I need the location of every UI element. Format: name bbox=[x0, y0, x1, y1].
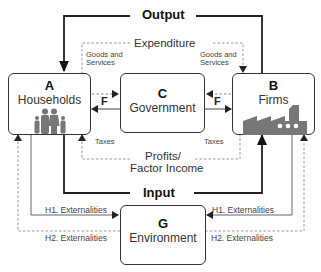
environment-name: Environment bbox=[121, 231, 205, 245]
goods-services-left-label: Goods and Services bbox=[86, 51, 123, 67]
factory-icon bbox=[243, 105, 307, 135]
h1-right-label: H1. Externalities bbox=[212, 206, 274, 215]
h1-left-label: H1. Externalities bbox=[45, 206, 107, 215]
output-label: Output bbox=[142, 8, 185, 22]
goods-left-line2: Services bbox=[86, 59, 123, 67]
government-name: Government bbox=[121, 101, 204, 115]
households-node[interactable]: A Households bbox=[8, 73, 91, 135]
profits-label: Profits/ Factor Income bbox=[130, 150, 196, 174]
taxes-right-label: Taxes bbox=[204, 138, 224, 146]
h2-right-label: H2. Externalities bbox=[211, 234, 273, 243]
government-node[interactable]: C Government bbox=[120, 73, 205, 133]
input-label: Input bbox=[143, 186, 175, 200]
profits-line2: Factor Income bbox=[130, 162, 196, 174]
profits-line1: Profits/ bbox=[130, 150, 196, 162]
h1-externalities-lines bbox=[31, 134, 292, 215]
government-letter: C bbox=[121, 86, 204, 101]
family-icon bbox=[32, 108, 68, 134]
f-left-label: F bbox=[101, 96, 108, 108]
households-letter: A bbox=[9, 78, 90, 93]
h2-left-label: H2. Externalities bbox=[45, 234, 107, 243]
goods-services-right-label: Goods and Services bbox=[200, 51, 237, 67]
f-right-label: F bbox=[214, 96, 221, 108]
expenditure-label: Expenditure bbox=[134, 37, 195, 49]
taxes-left-label: Taxes bbox=[95, 138, 115, 146]
environment-letter: G bbox=[121, 216, 205, 231]
environment-node[interactable]: G Environment bbox=[120, 205, 206, 265]
circular-flow-diagram: Output Expenditure Goods and Services Go… bbox=[0, 0, 321, 272]
households-name: Households bbox=[9, 93, 90, 107]
firms-letter: B bbox=[233, 78, 314, 93]
goods-right-line2: Services bbox=[200, 59, 237, 67]
firms-node[interactable]: B Firms bbox=[232, 73, 315, 135]
